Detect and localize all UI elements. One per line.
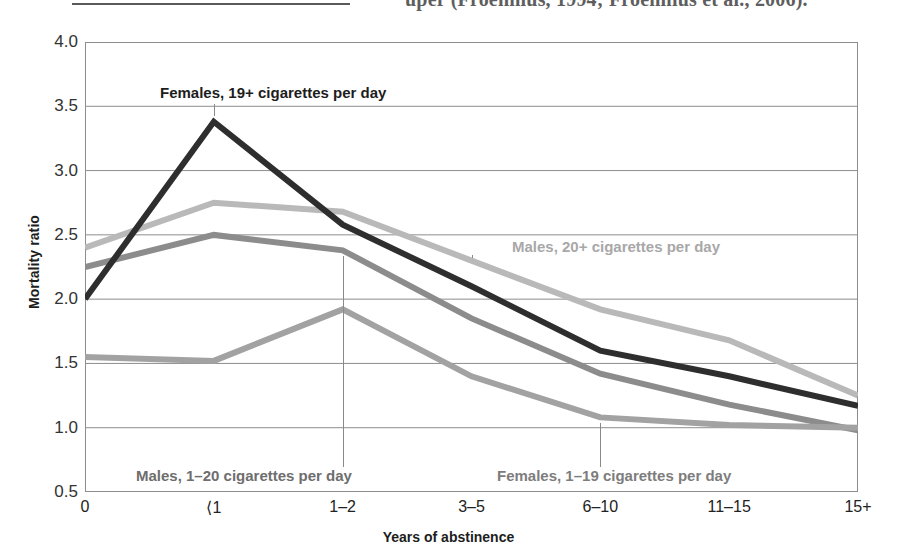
x-axis-tick-labels: 0⟨11–23–56–1011–1515+: [0, 498, 897, 528]
series-annotation-label: Males, 20+ cigarettes per day: [512, 238, 720, 255]
y-tick-label: 4.0: [34, 32, 78, 52]
x-tick-label: 11–15: [708, 498, 751, 516]
annotation-leader-line: [214, 104, 215, 116]
series-annotation-label: Males, 1–20 cigarettes per day: [136, 467, 352, 484]
page-scrap-rule: [72, 3, 350, 5]
y-tick-label: 3.5: [34, 96, 78, 116]
x-tick-label: 6–10: [583, 498, 619, 516]
mortality-ratio-line-chart: Mortality ratio 0.51.01.52.02.53.03.54.0…: [0, 26, 897, 556]
y-tick-label: 2.5: [34, 225, 78, 245]
x-tick-label: 3–5: [458, 498, 485, 516]
y-tick-label: 3.0: [34, 161, 78, 181]
y-tick-label: 1.0: [34, 418, 78, 438]
x-tick-label: ⟨1: [206, 498, 221, 517]
page-scrap-text: uper (Froenhius, 1994; Froenhius et al.,…: [405, 0, 808, 11]
annotation-leader-line: [600, 423, 601, 467]
x-tick-label: 0: [81, 498, 90, 516]
plot-area: [85, 42, 858, 492]
x-axis-title: Years of abstinence: [0, 529, 897, 545]
page-scrap: uper (Froenhius, 1994; Froenhius et al.,…: [0, 0, 897, 26]
series-annotation-label: Females, 19+ cigarettes per day: [160, 84, 386, 101]
x-tick-label: 1–2: [329, 498, 356, 516]
series-annotation-label: Females, 1–19 cigarettes per day: [497, 467, 731, 484]
x-tick-label: 15+: [844, 498, 871, 516]
y-tick-label: 2.0: [34, 289, 78, 309]
series-line: [85, 235, 858, 430]
annotation-leader-line: [472, 255, 473, 258]
annotation-leader-line: [343, 256, 344, 467]
plot-svg: [85, 42, 858, 492]
y-axis-tick-labels: 0.51.01.52.02.53.03.54.0: [0, 26, 78, 526]
y-tick-label: 1.5: [34, 353, 78, 373]
